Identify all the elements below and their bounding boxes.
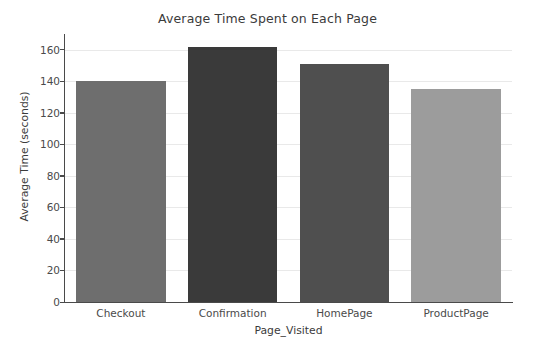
x-axis-tick-labels: CheckoutConfirmationHomePageProductPage — [65, 307, 512, 325]
y-axis-title: Average Time (seconds) — [18, 47, 31, 267]
y-axis-tick-mark — [60, 302, 64, 303]
bar — [188, 47, 277, 302]
y-axis-tick-mark — [60, 175, 64, 176]
x-axis-tick-label: ProductPage — [423, 307, 488, 319]
x-axis-tick-label: Checkout — [96, 307, 145, 319]
plot-area — [65, 34, 512, 302]
bar — [76, 81, 165, 302]
bar-chart-figure: Average Time Spent on Each Page 02040608… — [0, 0, 535, 351]
x-axis-title: Page_Visited — [65, 324, 512, 337]
y-axis-tick-mark — [60, 49, 64, 50]
bar — [411, 89, 500, 302]
y-axis-tick-mark — [60, 207, 64, 208]
chart-title: Average Time Spent on Each Page — [0, 11, 535, 26]
x-axis-tick-label: HomePage — [316, 307, 372, 319]
gridline — [65, 50, 512, 51]
x-axis-spine — [64, 302, 513, 303]
y-axis-tick-label: 0 — [20, 296, 60, 308]
y-axis-tick-mark — [60, 112, 64, 113]
y-axis-tick-mark — [60, 144, 64, 145]
y-axis-tick-mark — [60, 270, 64, 271]
y-axis-tick-mark — [60, 238, 64, 239]
x-axis-tick-label: Confirmation — [199, 307, 267, 319]
bar — [300, 64, 389, 302]
y-axis-tick-mark — [60, 81, 64, 82]
